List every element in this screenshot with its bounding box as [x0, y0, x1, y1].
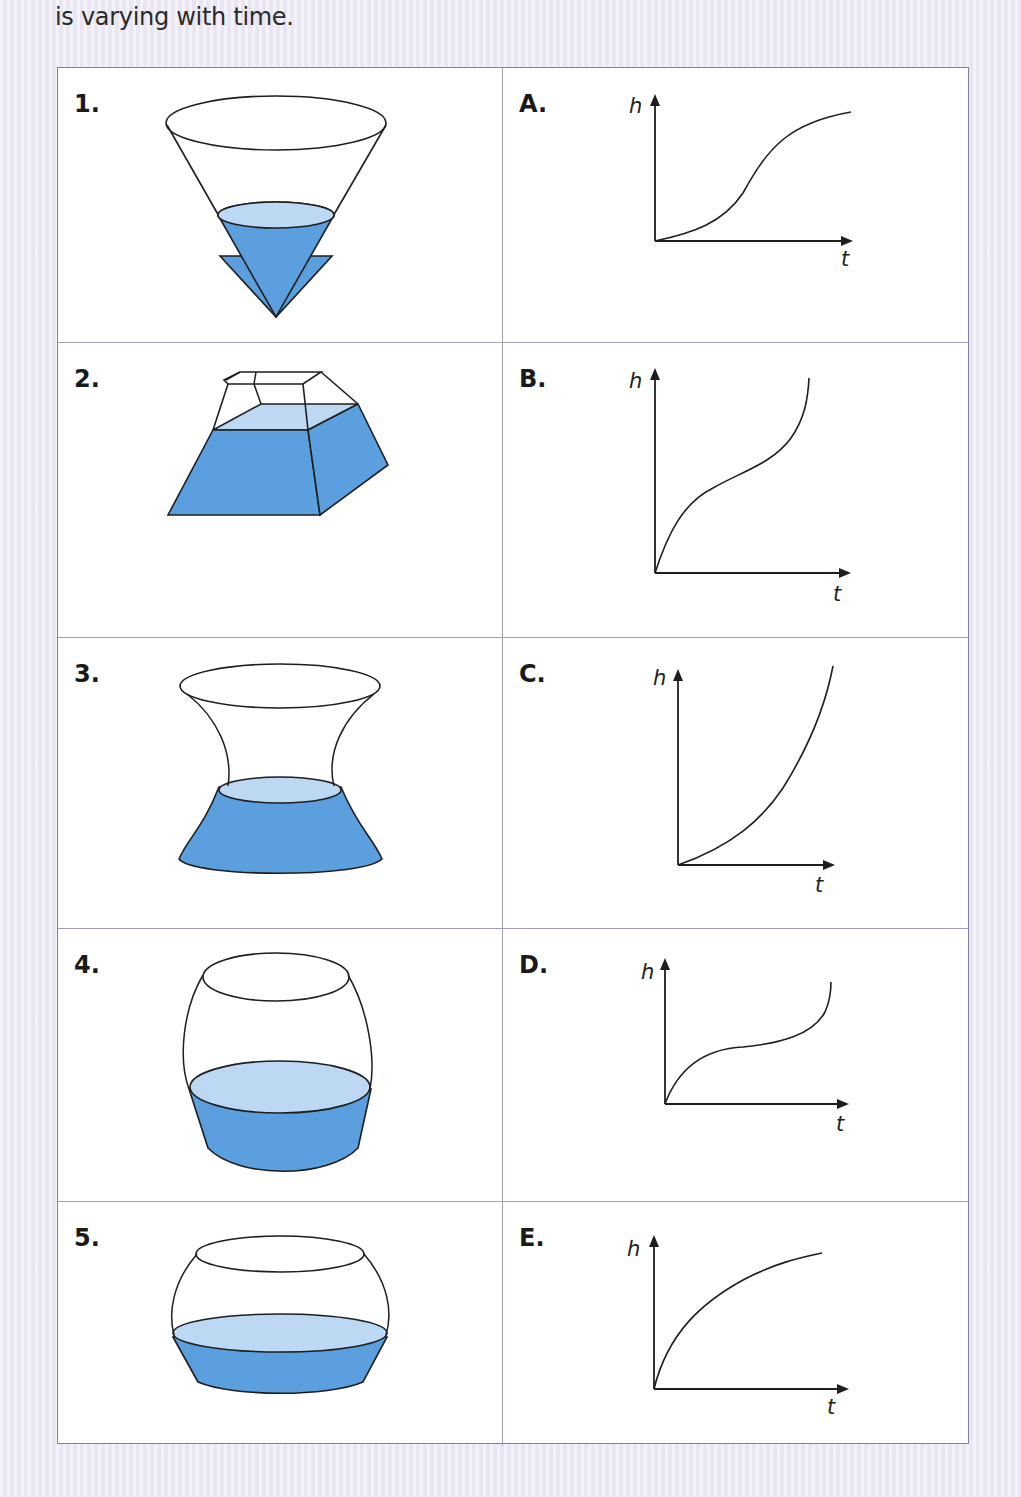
x-axis-label: t — [833, 582, 842, 606]
table-row: 5. E. h t — [58, 1202, 968, 1445]
graph-d: h t — [503, 929, 968, 1202]
table-row: 3. C. h t — [58, 638, 968, 929]
x-axis-label: t — [827, 1395, 836, 1419]
container-cell-1: 1. — [58, 68, 503, 342]
graph-cell-c: C. h t — [503, 638, 968, 928]
inverted-cone-icon — [58, 68, 503, 343]
container-cell-4: 4. — [58, 929, 503, 1201]
graph-cell-e: E. h t — [503, 1202, 968, 1445]
y-axis-label: h — [629, 94, 642, 118]
table-row: 4. D. h t — [58, 929, 968, 1202]
table-row: 2. B. — [58, 343, 968, 638]
graph-a: h t — [503, 68, 968, 343]
y-axis-label: h — [627, 1237, 640, 1261]
table-row: 1. A. h t — [58, 68, 968, 343]
container-cell-3: 3. — [58, 638, 503, 928]
y-axis-label: h — [653, 666, 666, 690]
x-axis-label: t — [815, 873, 824, 897]
barrel-vase-icon — [58, 929, 503, 1202]
container-cell-5: 5. — [58, 1202, 503, 1445]
graph-c: h t — [503, 638, 968, 929]
hourglass-container-icon — [58, 638, 503, 929]
y-axis-label: h — [629, 369, 642, 393]
graph-cell-d: D. h t — [503, 929, 968, 1201]
graph-cell-a: A. h t — [503, 68, 968, 342]
truncated-pyramid-icon — [58, 343, 503, 638]
matching-table: 1. A. h t — [57, 67, 969, 1444]
graph-e: h t — [503, 1202, 968, 1445]
y-axis-label: h — [641, 960, 654, 984]
x-axis-label: t — [836, 1112, 845, 1136]
container-cell-2: 2. — [58, 343, 503, 637]
graph-cell-b: B. h t — [503, 343, 968, 637]
round-bowl-icon — [58, 1202, 503, 1445]
graph-b: h t — [503, 343, 968, 638]
intro-text: is varying with time. — [55, 2, 294, 32]
x-axis-label: t — [841, 247, 850, 271]
